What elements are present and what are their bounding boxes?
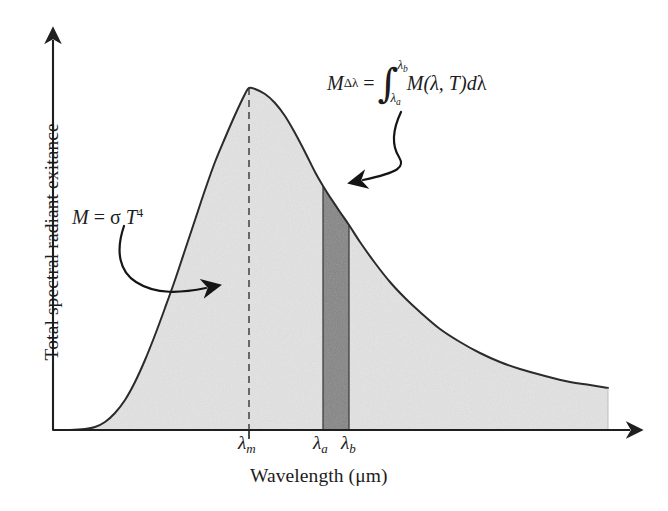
integral-integrand: M(λ, T) (407, 73, 467, 93)
stefan-equals: = (94, 206, 105, 228)
integral-upper-limit: λb (397, 58, 407, 74)
lambda-m-symbol: λ (238, 432, 246, 453)
band-integral-arrow (363, 112, 401, 180)
integral-upper-subscript: b (403, 64, 408, 74)
tick-label-lambda-b: λb (341, 433, 356, 455)
band-delta-lambda-fill (323, 186, 349, 430)
integral-lower-subscript: a (396, 97, 401, 107)
stefan-exponent: 4 (137, 205, 144, 220)
integral-lower-limit: λa (390, 91, 400, 107)
integral-lhs-subscript: Δλ (344, 76, 359, 89)
figure-root: Total spectral radiant exitance Waveleng… (0, 0, 668, 511)
tick-label-lambda-m: λm (238, 433, 256, 455)
integral-equals: = (363, 73, 374, 93)
lambda-a-symbol: λ (313, 432, 321, 453)
stefan-boltzmann-annotation: M = σ T4 (72, 206, 143, 227)
tick-label-lambda-a: λa (313, 433, 328, 455)
lambda-b-subscript: b (349, 441, 356, 456)
stefan-sigma: σ (110, 206, 121, 228)
x-axis-label: Wavelength (μm) (250, 466, 388, 486)
lambda-a-subscript: a (321, 441, 328, 456)
integral-differential-variable: λ (477, 73, 487, 93)
band-integral-annotation: MΔλ =∫λbλaM(λ, T)dλ (327, 62, 486, 103)
stefan-t: T (126, 206, 137, 228)
lambda-b-symbol: λ (341, 432, 349, 453)
lambda-m-subscript: m (246, 441, 255, 456)
stefan-m: M (72, 206, 89, 228)
integral-lhs-m: M (327, 73, 344, 93)
integral-differential-d: d (467, 73, 477, 93)
y-axis-label: Total spectral radiant exitance (42, 92, 62, 392)
integral-sign-group: ∫λbλa (378, 62, 406, 103)
